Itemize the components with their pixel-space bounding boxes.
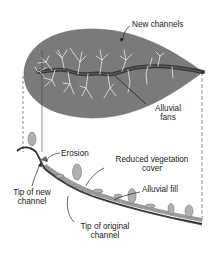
label-new-channels: New channels <box>132 20 183 29</box>
tree-5 <box>185 205 193 217</box>
label-tip-original-channel: Tip of original channel <box>70 222 140 240</box>
label-tip-original-channel-line1: Tip of original <box>70 222 140 231</box>
tip-new-channel-leader <box>32 164 40 186</box>
label-reduced-vegetation-line1: Reduced vegetation <box>104 155 200 164</box>
label-alluvial-fans: Alluvial fans <box>148 104 188 122</box>
label-tip-new-channel-line2: channel <box>6 197 58 206</box>
tree-4 <box>168 204 174 215</box>
shrub-4 <box>145 204 155 208</box>
label-alluvial-fans-line1: Alluvial <box>148 104 188 113</box>
tree-2 <box>73 164 82 180</box>
shrub-2 <box>93 189 103 193</box>
label-alluvial-fill: Alluvial fill <box>142 185 178 194</box>
label-tip-new-channel: Tip of new channel <box>6 188 58 206</box>
drainage-basin-diagram <box>0 0 213 255</box>
cross-section-profile <box>17 132 202 225</box>
label-erosion: Erosion <box>61 149 89 158</box>
reduced-vegetation-leader <box>86 168 104 186</box>
shrub-1 <box>56 174 64 178</box>
label-tip-original-channel-line2: channel <box>70 231 140 240</box>
tree-3 <box>128 189 136 204</box>
erosion-leader <box>46 153 60 162</box>
tip-original-leader <box>67 196 74 222</box>
tree-1 <box>28 132 36 146</box>
label-tip-new-channel-line1: Tip of new <box>6 188 58 197</box>
label-reduced-vegetation: Reduced vegetation cover <box>104 155 200 173</box>
label-reduced-vegetation-line2: cover <box>104 164 200 173</box>
label-alluvial-fans-line2: fans <box>148 113 188 122</box>
